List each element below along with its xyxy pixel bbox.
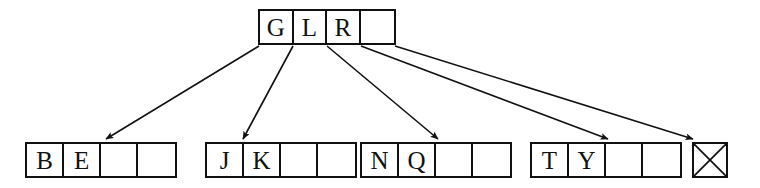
null-pointer-node bbox=[692, 142, 728, 178]
root-cell-0: G bbox=[260, 11, 294, 43]
leaf-1-cell-0: J bbox=[207, 144, 244, 176]
root-cell-3 bbox=[361, 11, 394, 43]
root-node: G L R bbox=[258, 9, 396, 45]
leaf-2-cell-3 bbox=[473, 144, 510, 176]
leaf-0-cell-1: E bbox=[64, 144, 101, 176]
edge-root-to-leaf-3 bbox=[361, 46, 608, 139]
root-cell-1: L bbox=[294, 11, 328, 43]
leaf-0-cell-3 bbox=[138, 144, 175, 176]
root-cell-2: R bbox=[327, 11, 361, 43]
leaf-node-2: N Q bbox=[360, 142, 512, 178]
leaf-1-cell-3 bbox=[318, 144, 355, 176]
leaf-node-1: J K bbox=[205, 142, 357, 178]
leaf-0-cell-2 bbox=[101, 144, 138, 176]
leaf-2-cell-1: Q bbox=[399, 144, 436, 176]
leaf-3-cell-2 bbox=[606, 144, 643, 176]
edge-root-to-leaf-2 bbox=[327, 46, 438, 139]
leaf-3-cell-3 bbox=[643, 144, 680, 176]
edge-root-to-null bbox=[395, 46, 693, 139]
edge-root-to-leaf-1 bbox=[243, 46, 293, 139]
leaf-2-cell-0: N bbox=[362, 144, 399, 176]
leaf-node-0: B E bbox=[25, 142, 177, 178]
leaf-1-cell-2 bbox=[281, 144, 318, 176]
leaf-2-cell-2 bbox=[436, 144, 473, 176]
leaf-3-cell-0: T bbox=[532, 144, 569, 176]
leaf-1-cell-1: K bbox=[244, 144, 281, 176]
btree-diagram: G L R B E J K N Q T Y bbox=[0, 0, 760, 188]
leaf-0-cell-0: B bbox=[27, 144, 64, 176]
edge-root-to-leaf-0 bbox=[106, 46, 259, 139]
crossed-box-icon bbox=[694, 144, 726, 176]
leaf-node-3: T Y bbox=[530, 142, 682, 178]
leaf-3-cell-1: Y bbox=[569, 144, 606, 176]
